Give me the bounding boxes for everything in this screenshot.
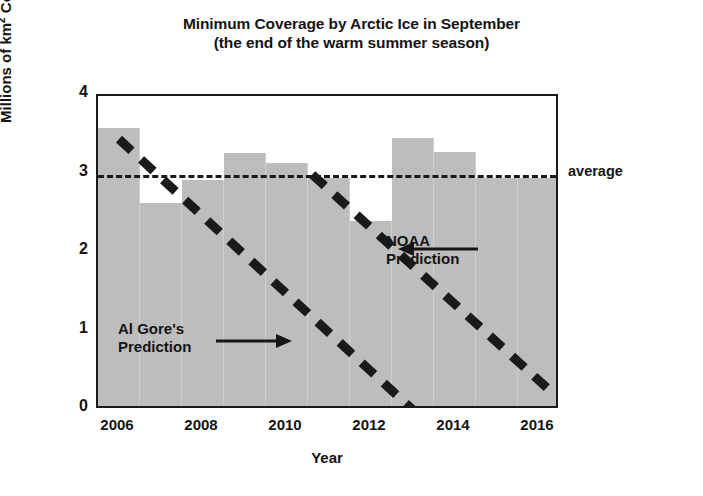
- y-tick-3: 3: [64, 162, 88, 180]
- y-axis-label: Millions of km2 Covered: [0, 0, 14, 148]
- x-tick-2016: 2016: [507, 416, 567, 433]
- bar-2011: [308, 178, 350, 406]
- noaa-annotation-line-1: NOAA: [386, 232, 430, 249]
- x-tick-2010: 2010: [255, 416, 315, 433]
- bar-2014: [434, 152, 476, 406]
- bar-2010: [266, 163, 308, 406]
- x-tick-2012: 2012: [339, 416, 399, 433]
- chart-title-line-2: (the end of the warm summer season): [0, 33, 703, 52]
- al-gore-annotation-line-1: Al Gore's: [118, 320, 184, 337]
- chart-title: Minimum Coverage by Arctic Ice in Septem…: [0, 14, 703, 52]
- y-tick-0: 0: [64, 397, 88, 415]
- bar-2006: [98, 128, 140, 406]
- bar-2008: [182, 180, 224, 406]
- bar-2009: [224, 153, 266, 406]
- y-tick-1: 1: [64, 319, 88, 337]
- x-tick-2014: 2014: [423, 416, 483, 433]
- bar-series: [98, 96, 556, 406]
- y-tick-2: 2: [64, 240, 88, 258]
- bar-2016: [518, 178, 558, 406]
- x-axis-label: Year: [96, 449, 558, 466]
- plot-inner: Al Gore's Prediction NOAA Prediction: [98, 96, 556, 406]
- x-tick-2008: 2008: [171, 416, 231, 433]
- bar-2015: [476, 178, 518, 406]
- al-gore-annotation-line-2: Prediction: [118, 338, 191, 356]
- bar-2007: [140, 203, 182, 406]
- y-tick-4: 4: [64, 83, 88, 101]
- noaa-prediction-annotation: NOAA Prediction: [386, 232, 459, 268]
- average-line-label: average: [568, 163, 623, 179]
- plot-area: Al Gore's Prediction NOAA Prediction: [96, 94, 558, 408]
- y-axis-label-text: Millions of km2 Covered: [0, 0, 14, 123]
- chart-title-line-1: Minimum Coverage by Arctic Ice in Septem…: [183, 15, 520, 32]
- al-gore-prediction-annotation: Al Gore's Prediction: [118, 320, 191, 356]
- x-tick-2006: 2006: [87, 416, 147, 433]
- average-line: [98, 175, 556, 178]
- noaa-annotation-line-2: Prediction: [386, 250, 459, 268]
- bar-2013: [392, 138, 434, 406]
